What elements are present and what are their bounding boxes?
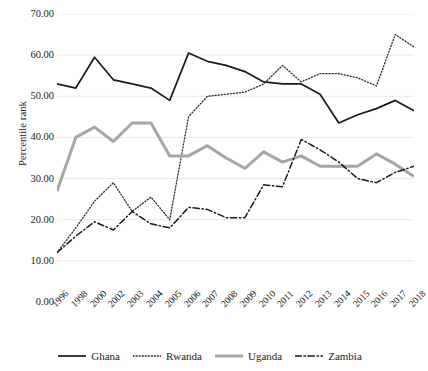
series-line-zambia [57, 139, 414, 252]
chart-legend: GhanaRwandaUgandaZambia [0, 345, 420, 367]
y-tick-label: 40.00 [8, 131, 54, 142]
y-tick-label: 50.00 [8, 90, 54, 101]
y-axis-tick-labels: 0.0010.0020.0030.0040.0050.0060.0070.00 [7, 0, 54, 371]
legend-label: Rwanda [166, 350, 202, 362]
legend-swatch-rwanda-icon [133, 351, 161, 361]
legend-swatch-uganda-icon [215, 351, 243, 361]
series-line-uganda [57, 123, 414, 191]
legend-item-uganda[interactable]: Uganda [215, 350, 282, 362]
legend-label: Ghana [91, 350, 120, 362]
y-tick-label: 30.00 [8, 173, 54, 184]
legend-label: Zambia [328, 350, 362, 362]
y-tick-label: 20.00 [8, 214, 54, 225]
y-tick-label: 60.00 [8, 49, 54, 60]
legend-swatch-ghana-icon [58, 351, 86, 361]
legend-item-rwanda[interactable]: Rwanda [133, 350, 202, 362]
legend-swatch-zambia-icon [295, 351, 323, 361]
legend-item-ghana[interactable]: Ghana [58, 350, 120, 362]
series-line-ghana [57, 53, 414, 123]
x-axis-tick-labels: 1996199820002002200320042005200620072008… [57, 302, 414, 346]
plot-svg [57, 14, 414, 302]
plot-area [57, 14, 414, 302]
y-tick-label: 10.00 [8, 255, 54, 266]
legend-label: Uganda [248, 350, 282, 362]
y-tick-label: 0.00 [8, 296, 54, 307]
legend-item-zambia[interactable]: Zambia [295, 350, 362, 362]
y-tick-label: 70.00 [8, 8, 54, 19]
